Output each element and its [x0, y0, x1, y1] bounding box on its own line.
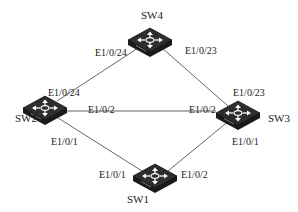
- node-label-sw3: SW3: [268, 112, 291, 124]
- node-label-sw1: SW1: [127, 193, 149, 205]
- network-topology-diagram: SW4 SW2 SW3 SW1 E1/0/24 E1/0/23 E1/0/24 …: [0, 0, 298, 212]
- node-label-sw4: SW4: [141, 9, 164, 21]
- port-label-sw3-e1-0-1: E1/0/1: [232, 136, 259, 147]
- switch-icon: [133, 164, 177, 193]
- port-label-sw1-e1-0-2: E1/0/2: [181, 169, 208, 180]
- port-label-sw4-e1-0-23: E1/0/23: [185, 45, 217, 56]
- port-label-sw4-e1-0-24: E1/0/24: [95, 47, 127, 58]
- link-sw3-sw1: [168, 120, 230, 171]
- switch-sw4[interactable]: [128, 28, 172, 57]
- link-sw4-sw3: [162, 48, 228, 106]
- port-label-sw3-e1-0-23: E1/0/23: [233, 87, 265, 98]
- switch-sw1[interactable]: [133, 164, 177, 193]
- port-label-sw2-e1-0-24: E1/0/24: [48, 87, 80, 98]
- port-label-sw2-e1-0-1: E1/0/1: [51, 136, 78, 147]
- switch-icon: [128, 28, 172, 57]
- node-label-sw2: SW2: [15, 112, 37, 124]
- port-label-sw1-e1-0-1: E1/0/1: [99, 169, 126, 180]
- port-label-sw2-e1-0-2: E1/0/2: [88, 104, 115, 115]
- port-label-sw3-e1-0-2: E1/0/2: [189, 104, 216, 115]
